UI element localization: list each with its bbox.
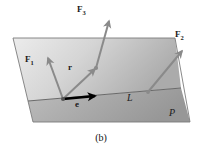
point-f2-base (146, 90, 150, 94)
label-e: e (75, 100, 79, 109)
label-line-l: L (127, 93, 133, 103)
force-plane-diagram: F1 F2 F3 r e L P (b) (0, 0, 202, 151)
diagram-canvas (0, 0, 202, 151)
label-f3: F3 (77, 5, 86, 16)
label-f1: F1 (25, 55, 34, 66)
label-r: r (68, 63, 72, 72)
label-f2: F2 (175, 30, 184, 41)
point-r-tip (94, 66, 98, 70)
label-plane-p: P (169, 108, 175, 118)
point-origin (61, 97, 65, 101)
figure-caption: (b) (0, 132, 202, 143)
